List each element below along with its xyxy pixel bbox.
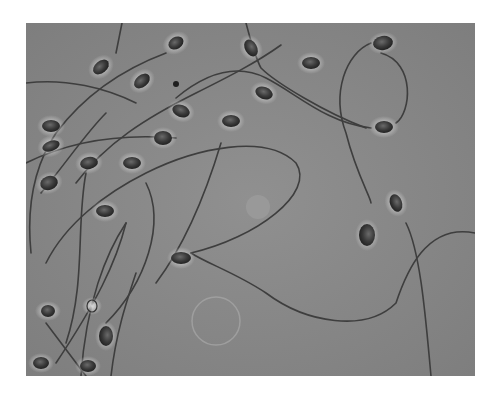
bubble: [246, 195, 270, 219]
micrograph: [26, 23, 475, 376]
